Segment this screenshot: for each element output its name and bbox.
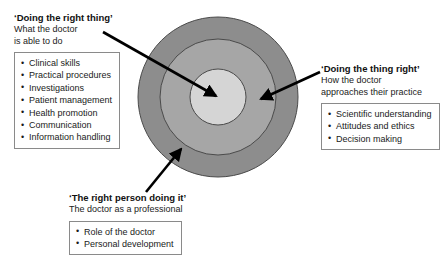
annotation-title: ‘Doing the thing right’: [321, 63, 440, 75]
list-item: Communication: [21, 119, 112, 131]
list-item: Decision making: [328, 133, 432, 145]
list-item: Investigations: [21, 82, 112, 94]
annotation-subtitle-line: The doctor as a professional: [69, 204, 186, 216]
list-item: Role of the doctor: [76, 226, 174, 238]
bullet-list: Role of the doctor Personal development: [76, 226, 174, 251]
list-item: Information handling: [21, 131, 112, 143]
list-item: Scientific understanding: [328, 108, 432, 120]
list-item: Practical procedures: [21, 69, 112, 81]
bullet-list: Scientific understanding Attitudes and e…: [328, 108, 432, 145]
annotation-doing-the-right-thing: ‘Doing the right thing’ What the doctor …: [14, 12, 120, 149]
list-item: Attitudes and ethics: [328, 120, 432, 132]
annotation-subtitle-line: is able to do: [14, 36, 120, 48]
bullet-box: Clinical skills Practical procedures Inv…: [14, 52, 120, 149]
list-item: Clinical skills: [21, 57, 112, 69]
annotation-title: ‘The right person doing it’: [69, 192, 186, 204]
annotation-subtitle-line: approaches their practice: [321, 87, 440, 99]
bullet-box: Scientific understanding Attitudes and e…: [321, 103, 440, 150]
annotation-title: ‘Doing the right thing’: [14, 12, 120, 24]
inner-core-circle: [190, 69, 246, 125]
list-item: Personal development: [76, 238, 174, 250]
list-item: Health promotion: [21, 107, 112, 119]
bullet-box: Role of the doctor Personal development: [69, 221, 182, 256]
annotation-doing-the-thing-right: ‘Doing the thing right’ How the doctor a…: [321, 63, 440, 150]
annotation-subtitle-line: What the doctor: [14, 24, 120, 36]
concentric-circles-diagram: ‘Doing the right thing’ What the doctor …: [0, 0, 446, 270]
annotation-subtitle-line: How the doctor: [321, 75, 440, 87]
list-item: Patient management: [21, 94, 112, 106]
bullet-list: Clinical skills Practical procedures Inv…: [21, 57, 112, 144]
annotation-the-right-person-doing-it: ‘The right person doing it’ The doctor a…: [69, 192, 186, 255]
